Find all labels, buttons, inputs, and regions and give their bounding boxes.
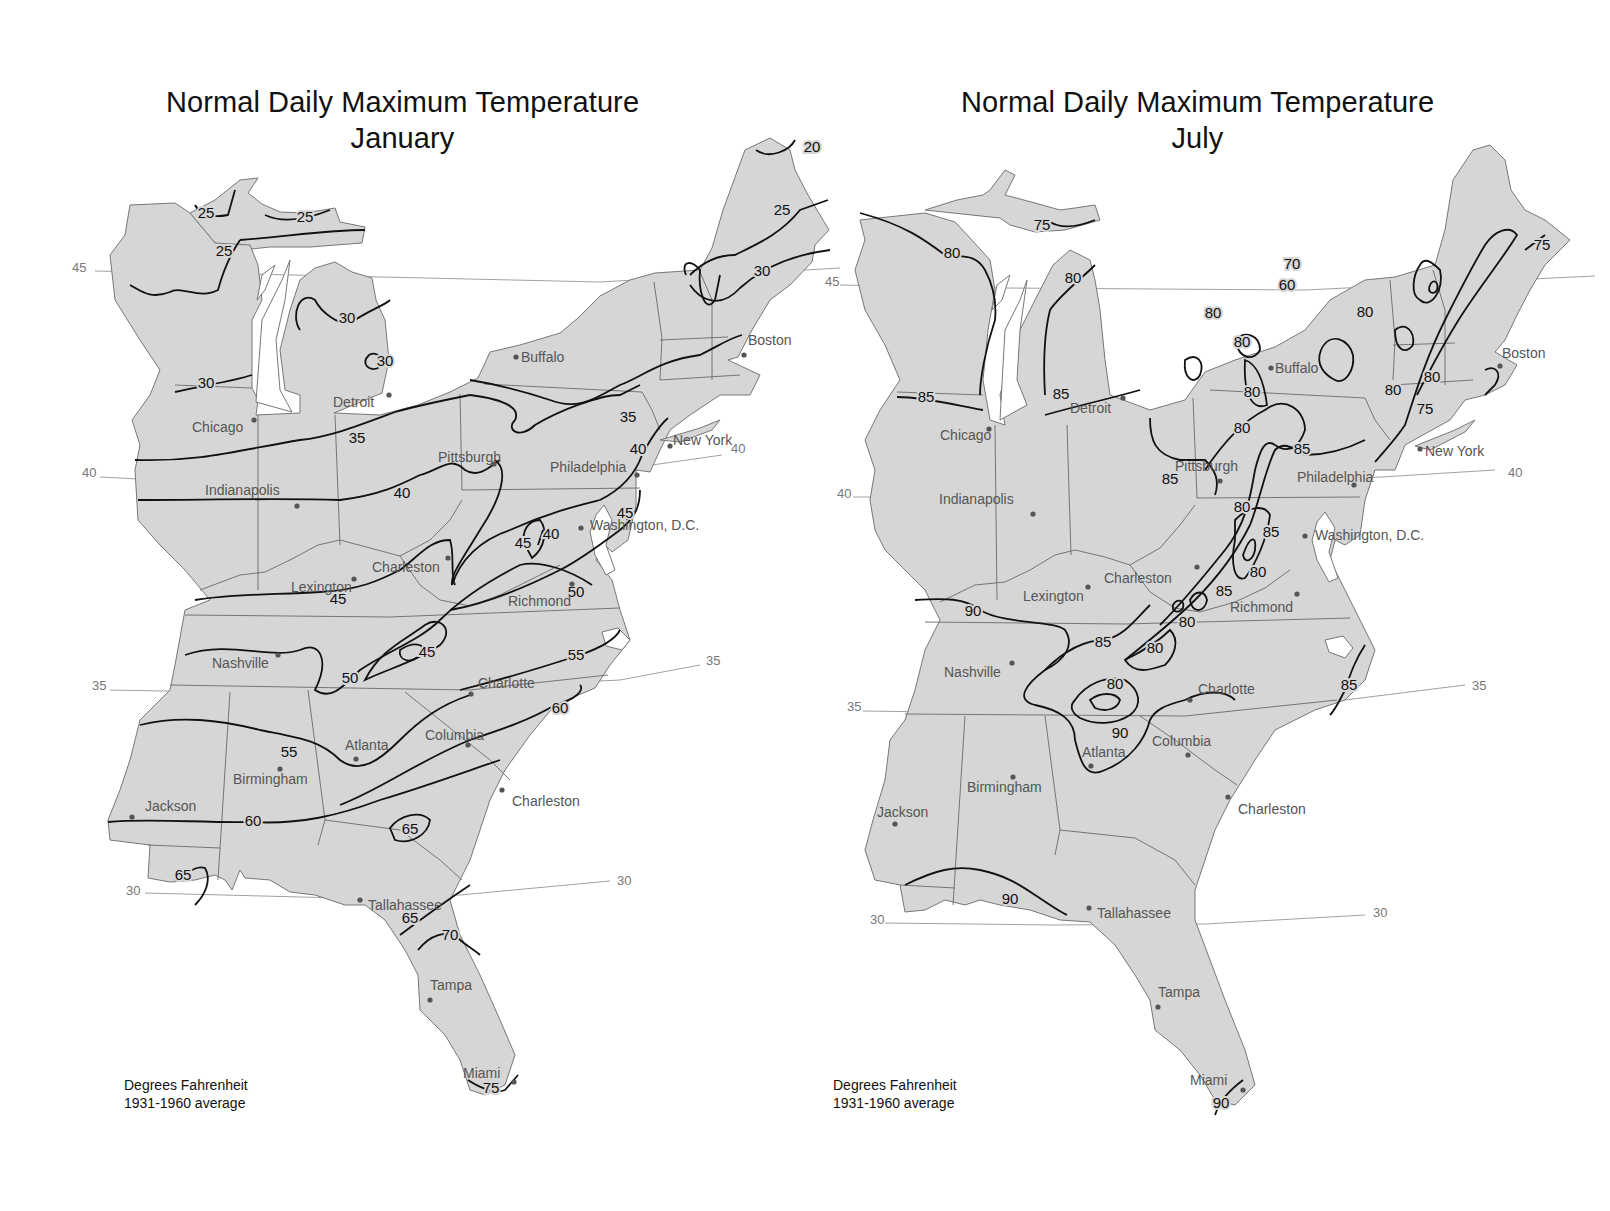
- city-label: Philadelphia: [550, 459, 626, 475]
- city-dot-icon: [1088, 763, 1093, 768]
- isotherm-label: 65: [402, 820, 419, 837]
- city-dot-icon: [251, 417, 256, 422]
- isotherm-label: 80: [1234, 333, 1251, 350]
- city-dot-icon: [1185, 752, 1190, 757]
- latitude-label: 30: [617, 873, 631, 888]
- city-label: Richmond: [508, 593, 571, 609]
- city-marker: Charleston: [499, 787, 579, 809]
- city-dot-icon: [1217, 478, 1222, 483]
- city-label: Lexington: [1023, 588, 1084, 604]
- isotherm-label: 75: [1417, 400, 1434, 417]
- isotherm-label: 70: [442, 926, 459, 943]
- city-label: Chicago: [940, 427, 992, 443]
- isotherm-label: 80: [1244, 383, 1261, 400]
- city-dot-icon: [1009, 660, 1014, 665]
- isotherm-label: 25: [297, 208, 314, 225]
- isotherm-label: 55: [568, 646, 585, 663]
- isotherm-label: 40: [543, 525, 560, 542]
- city-marker: Chicago: [940, 426, 992, 443]
- isotherm-label: 30: [754, 262, 771, 279]
- latitude-label: 45: [72, 260, 86, 275]
- july-map: 7580807570608080808080807585858580858085…: [805, 0, 1610, 1211]
- city-label: Indianapolis: [939, 491, 1014, 507]
- city-dot-icon: [513, 354, 518, 359]
- city-marker: New York: [667, 432, 733, 449]
- city-label: Miami: [463, 1065, 500, 1081]
- city-label: Columbia: [425, 727, 484, 743]
- latitude-label: 35: [1472, 678, 1486, 693]
- city-dot-icon: [1187, 697, 1192, 702]
- period-label: 1931-1960 average: [833, 1094, 957, 1112]
- isotherm-label: 45: [515, 534, 532, 551]
- isotherm-label: 25: [198, 204, 215, 221]
- latitude-label: 35: [847, 699, 861, 714]
- city-dot-icon: [569, 581, 574, 586]
- isotherm-label: 85: [1341, 676, 1358, 693]
- isotherm-label: 80: [1179, 613, 1196, 630]
- city-dot-icon: [1302, 533, 1307, 538]
- city-label: Washington, D.C.: [590, 517, 699, 533]
- city-dot-icon: [1085, 584, 1090, 589]
- latitude-label: 40: [837, 486, 851, 501]
- city-marker: Tallahassee: [1086, 905, 1171, 921]
- city-marker: Detroit: [333, 392, 392, 410]
- isotherm-label: 80: [1234, 419, 1251, 436]
- city-label: Miami: [1190, 1072, 1227, 1088]
- city-label: Charlotte: [1198, 681, 1255, 697]
- city-dot-icon: [1030, 511, 1035, 516]
- isotherm-label: 30: [339, 309, 356, 326]
- city-marker: Boston: [741, 332, 791, 358]
- city-marker: Lexington: [1023, 584, 1091, 604]
- city-label: Pittsburgh: [438, 449, 501, 465]
- city-label: Tallahassee: [1097, 905, 1171, 921]
- city-dot-icon: [1225, 794, 1230, 799]
- isotherm-label: 50: [342, 669, 359, 686]
- land-mass: [108, 138, 829, 1095]
- city-label: Tallahassee: [368, 897, 442, 913]
- city-label: Chicago: [192, 419, 244, 435]
- city-dot-icon: [741, 352, 746, 357]
- city-dot-icon: [129, 814, 134, 819]
- city-dot-icon: [1417, 446, 1422, 451]
- latitude-label: 40: [1508, 465, 1522, 480]
- january-caption: Degrees Fahrenheit 1931-1960 average: [124, 1076, 248, 1112]
- isotherm-label: 65: [175, 866, 192, 883]
- january-map: 2025252525303030303535404040454545455050…: [0, 0, 805, 1211]
- isotherm-label: 85: [1053, 385, 1070, 402]
- isotherm-label: 80: [1250, 563, 1267, 580]
- city-dot-icon: [1120, 395, 1125, 400]
- city-label: Richmond: [1230, 599, 1293, 615]
- city-marker: Washington, D.C.: [1302, 527, 1424, 543]
- city-label: Boston: [1502, 345, 1546, 361]
- city-dot-icon: [1155, 1004, 1160, 1009]
- january-map-panel: Normal Daily Maximum Temperature January: [0, 0, 805, 1211]
- units-label: Degrees Fahrenheit: [833, 1076, 957, 1094]
- city-dot-icon: [634, 472, 639, 477]
- isotherm-label: 80: [944, 244, 961, 261]
- isotherm-label: 85: [918, 388, 935, 405]
- isotherm-label: 90: [1002, 890, 1019, 907]
- city-marker: New York: [1417, 443, 1485, 459]
- city-dot-icon: [445, 555, 450, 560]
- city-label: New York: [673, 432, 733, 448]
- city-dot-icon: [667, 443, 672, 448]
- city-dot-icon: [1268, 365, 1273, 370]
- isotherm-label: 40: [630, 440, 647, 457]
- latitude-label: 35: [706, 653, 720, 668]
- city-label: Tampa: [1158, 984, 1200, 1000]
- city-label: Charleston: [512, 793, 580, 809]
- city-marker: Buffalo: [1268, 360, 1318, 376]
- city-dot-icon: [427, 997, 432, 1002]
- city-label: Boston: [748, 332, 792, 348]
- isotherm-label: 60: [245, 812, 262, 829]
- latitude-label: 40: [82, 465, 96, 480]
- isotherm-label: 90: [1112, 724, 1129, 741]
- isotherm-label: 35: [620, 408, 637, 425]
- city-label: Birmingham: [233, 771, 308, 787]
- city-marker: Washington, D.C.: [578, 517, 699, 533]
- latitude-label: 30: [870, 912, 884, 927]
- isotherm-label: 40: [394, 484, 411, 501]
- isotherm-label: 85: [1294, 440, 1311, 457]
- july-map-panel: Normal Daily Maximum Temperature July: [805, 0, 1610, 1211]
- city-label: Tampa: [430, 977, 472, 993]
